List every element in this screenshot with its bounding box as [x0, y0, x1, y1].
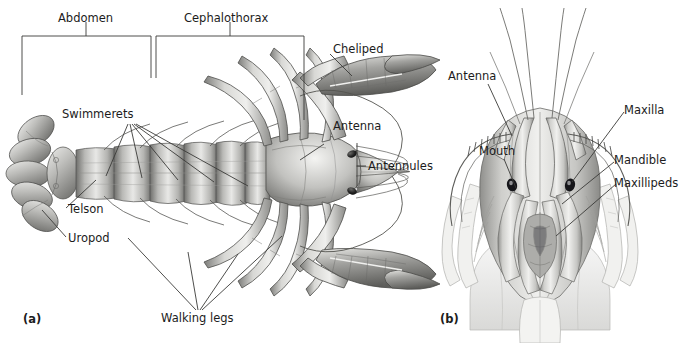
panel-label-b: (b) — [440, 312, 459, 326]
label-abdomen: Abdomen — [58, 12, 113, 24]
label-maxilla: Maxilla — [624, 104, 664, 116]
label-swimmerets: Swimmerets — [62, 108, 133, 120]
uropod-telson-group — [6, 109, 79, 238]
label-antenna-b: Antenna — [448, 70, 496, 82]
label-maxillipeds: Maxillipeds — [614, 177, 678, 189]
antennal-flagella — [490, 8, 594, 124]
bracket-abdomen — [22, 22, 151, 95]
label-antenna-a: Antenna — [333, 120, 381, 132]
posterior-body — [520, 297, 561, 343]
label-mandible: Mandible — [614, 154, 666, 166]
panel-label-a: (a) — [23, 312, 41, 326]
panel-b-artwork — [442, 8, 638, 343]
label-cheliped: Cheliped — [333, 43, 383, 55]
label-telson: Telson — [68, 203, 104, 215]
label-antennules: Antennules — [368, 160, 433, 172]
label-cephalothorax: Cephalothorax — [184, 12, 268, 24]
label-mouth: Mouth — [479, 145, 515, 157]
label-uropod: Uropod — [68, 232, 110, 244]
label-walking-legs: Walking legs — [161, 312, 234, 324]
crayfish-anatomy-figure: Abdomen Cephalothorax Cheliped Antenna A… — [0, 0, 688, 343]
